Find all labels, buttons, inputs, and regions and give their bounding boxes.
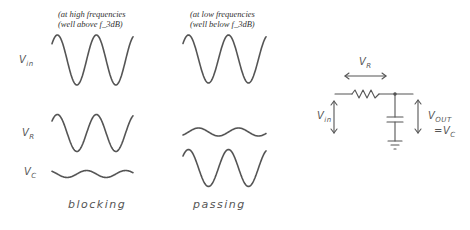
ground-icon — [388, 141, 402, 149]
label-passing: passing — [193, 198, 246, 211]
vr-wave-high — [52, 115, 133, 152]
circuit-label-vout: VOUT — [428, 110, 452, 124]
vin-wave-low — [183, 35, 266, 83]
label-vr: VR — [22, 127, 35, 141]
vin-wave-high — [52, 35, 133, 85]
caption-high-frequency: (at high frequencies (well above f_3dB) — [58, 9, 126, 29]
label-vin: Vin — [19, 54, 34, 68]
vr-wave-low — [183, 128, 266, 136]
circuit-label-vout-equals-vc: =VC — [434, 125, 456, 139]
circuit-label-vin: Vin — [317, 110, 332, 124]
vr-arrow — [345, 73, 386, 79]
label-blocking: blocking — [68, 198, 126, 211]
caption-high-line1: (at high frequencies — [58, 9, 126, 19]
vc-wave-high — [52, 171, 133, 178]
resistor — [352, 90, 379, 98]
caption-low-line2: (well below f_3dB) — [190, 19, 255, 29]
caption-low-line1: (at low frequencies — [190, 9, 255, 19]
diagram-canvas — [0, 0, 470, 230]
rc-circuit — [331, 73, 421, 149]
circuit-label-vr: VR — [359, 56, 372, 70]
vin-arrow — [331, 101, 337, 133]
caption-high-line2: (well above f_3dB) — [58, 19, 126, 29]
caption-low-frequency: (at low frequencies (well below f_3dB) — [190, 9, 255, 29]
vc-wave-low — [183, 150, 266, 187]
vout-arrow — [415, 100, 421, 133]
label-vc: VC — [24, 166, 37, 180]
